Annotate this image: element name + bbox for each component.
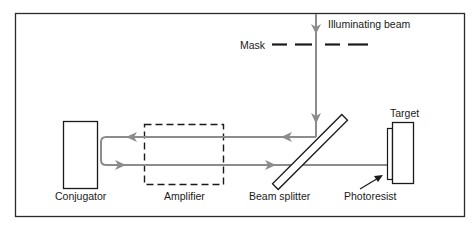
illuminating-beam-label: Illuminating beam xyxy=(328,19,410,30)
amplifier-label: Amplifier xyxy=(164,191,205,202)
mask-label: Mask xyxy=(240,40,265,51)
beam-splitter xyxy=(273,115,348,190)
beam-splitter-label: Beam splitter xyxy=(249,191,310,202)
conjugator-label: Conjugator xyxy=(55,191,106,202)
photoresist-label: Photoresist xyxy=(344,191,397,202)
photoresist-layer xyxy=(388,129,393,180)
conjugator-box xyxy=(64,122,98,189)
amplifier-box xyxy=(145,125,224,185)
photoresist-pointer-head xyxy=(374,175,383,182)
beam-loop xyxy=(101,137,387,165)
target-block xyxy=(393,123,414,184)
target-label: Target xyxy=(390,108,419,119)
